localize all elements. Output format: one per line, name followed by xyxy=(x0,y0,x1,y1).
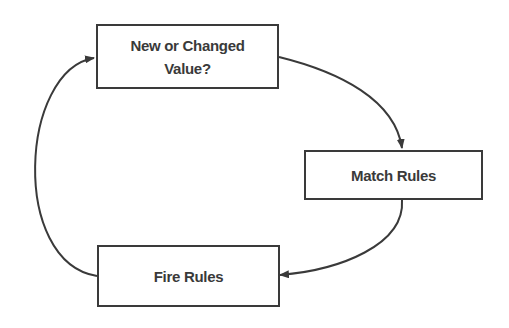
arrow-fire-to-new xyxy=(35,58,97,276)
arrow-new-to-match xyxy=(279,57,402,148)
arrow-match-to-fire xyxy=(280,200,402,275)
rule-engine-cycle-diagram: New or Changed Value? Match Rules Fire R… xyxy=(0,0,509,328)
node-label: Match Rules xyxy=(351,164,436,187)
node-fire-rules: Fire Rules xyxy=(97,245,280,307)
node-match-rules: Match Rules xyxy=(304,150,483,200)
node-new-or-changed-value: New or Changed Value? xyxy=(96,24,279,89)
node-label-line-2: Value? xyxy=(130,57,244,80)
node-label-line-1: New or Changed xyxy=(130,34,244,57)
node-label: Fire Rules xyxy=(154,265,224,288)
